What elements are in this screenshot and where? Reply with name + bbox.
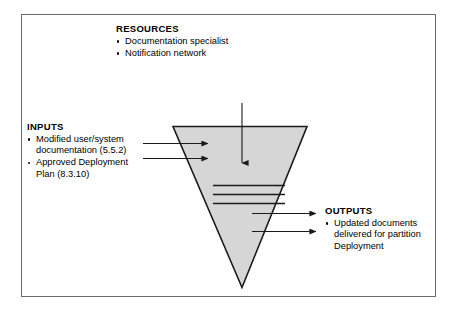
outputs-list: Updated documents delivered for partitio… — [325, 218, 440, 252]
outputs-block: OUTPUTS Updated documents delivered for … — [325, 205, 440, 253]
bullet-icon — [28, 162, 30, 164]
inputs-heading: INPUTS — [27, 121, 147, 132]
diagram-canvas: RESOURCES Documentation specialist Notif… — [0, 0, 453, 315]
outputs-heading: OUTPUTS — [325, 205, 440, 216]
resources-heading: RESOURCES — [116, 23, 291, 34]
resources-list: Documentation specialist Notification ne… — [116, 36, 291, 59]
list-item: Modified user/system documentation (5.5.… — [27, 134, 147, 157]
list-item: Updated documents delivered for partitio… — [325, 218, 440, 252]
inputs-item-1: Approved Deployment Plan (8.3.10) — [36, 157, 128, 178]
list-item: Notification network — [116, 48, 291, 59]
bullet-icon — [28, 138, 30, 140]
outputs-item-0: Updated documents delivered for partitio… — [334, 218, 421, 251]
inputs-block: INPUTS Modified user/system documentatio… — [27, 121, 147, 181]
bullet-icon — [326, 222, 328, 224]
inputs-item-0: Modified user/system documentation (5.5.… — [36, 134, 126, 155]
inputs-list: Modified user/system documentation (5.5.… — [27, 134, 147, 180]
list-item: Documentation specialist — [116, 36, 291, 47]
resources-item-0: Documentation specialist — [125, 36, 228, 46]
resources-item-1: Notification network — [125, 48, 206, 58]
resources-block: RESOURCES Documentation specialist Notif… — [116, 23, 291, 60]
list-item: Approved Deployment Plan (8.3.10) — [27, 157, 147, 180]
bullet-icon — [117, 40, 119, 42]
bullet-icon — [117, 52, 119, 54]
